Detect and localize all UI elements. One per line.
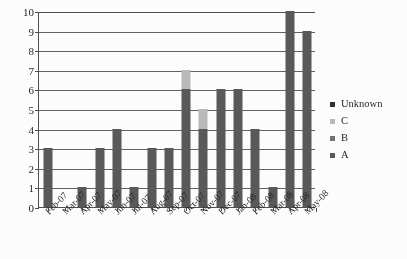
bar-stack[interactable] (286, 11, 295, 207)
bar-slot[interactable] (160, 12, 177, 207)
bar-slot[interactable] (264, 12, 281, 207)
y-tick-label: 0 (29, 203, 35, 214)
y-tick-label: 8 (29, 46, 35, 57)
bar-slot[interactable] (39, 12, 56, 207)
y-tick-label: 10 (23, 7, 34, 18)
bar-slot[interactable] (74, 12, 91, 207)
y-tick-mark (35, 208, 39, 209)
legend-item-b[interactable]: B (330, 130, 404, 147)
legend-item-a[interactable]: A (330, 147, 404, 164)
legend-label: A (341, 150, 349, 161)
y-tick-label: 2 (29, 163, 35, 174)
bar-chart-figure: 012345678910 Feb-07Mar-07Apr-07May-07Jun… (0, 0, 407, 259)
bar-slot[interactable] (56, 12, 73, 207)
bar-stack[interactable] (303, 31, 312, 207)
legend-swatch-icon (330, 119, 335, 124)
y-tick-label: 6 (29, 85, 35, 96)
y-tick-label: 9 (29, 26, 35, 37)
legend-item-c[interactable]: C (330, 113, 404, 130)
bar-segment-c[interactable] (182, 70, 191, 90)
legend-swatch-icon (330, 102, 335, 107)
bar-slot[interactable] (126, 12, 143, 207)
bar-segment-a[interactable] (303, 31, 312, 207)
bar-slot[interactable] (229, 12, 246, 207)
bar-slot[interactable] (143, 12, 160, 207)
legend-swatch-icon (330, 136, 335, 141)
bar-stack[interactable] (43, 148, 52, 207)
legend-label: C (341, 116, 348, 127)
legend-swatch-icon (330, 153, 335, 158)
chart-legend: UnknownCBA (330, 96, 404, 164)
y-tick-label: 1 (29, 183, 35, 194)
bar-slot[interactable] (108, 12, 125, 207)
y-tick-label: 3 (29, 144, 35, 155)
bar-slot[interactable] (299, 12, 316, 207)
bar-slot[interactable] (178, 12, 195, 207)
bar-slot[interactable] (195, 12, 212, 207)
bar-slot[interactable] (91, 12, 108, 207)
bar-slot[interactable] (247, 12, 264, 207)
bar-slot[interactable] (212, 12, 229, 207)
legend-label: B (341, 133, 348, 144)
y-tick-label: 7 (29, 65, 35, 76)
y-tick-label: 4 (29, 124, 35, 135)
bar-segment-c[interactable] (199, 109, 208, 129)
y-tick-label: 5 (29, 105, 35, 116)
bars-layer (39, 12, 315, 207)
legend-item-unknown[interactable]: Unknown (330, 96, 404, 113)
plot-area: 012345678910 (38, 12, 315, 208)
bar-segment-a[interactable] (286, 11, 295, 207)
bar-segment-a[interactable] (43, 148, 52, 207)
legend-label: Unknown (341, 99, 382, 110)
x-axis-labels: Feb-07Mar-07Apr-07May-07Jun-07Jul-07Aug-… (38, 210, 315, 258)
bar-slot[interactable] (281, 12, 298, 207)
bar-stack[interactable] (182, 70, 191, 207)
